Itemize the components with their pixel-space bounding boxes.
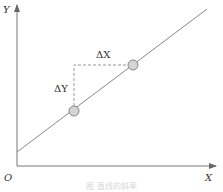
delta-y-label: ΔY [54,83,68,94]
delta-x-label: ΔX [96,49,111,60]
point-1 [69,106,79,116]
point-2 [128,60,138,70]
slope-diagram: Y X O ΔX ΔY [0,0,223,192]
regression-line [17,9,207,152]
y-axis-label: Y [3,4,11,15]
figure-caption: 图 直线的斜率 [0,180,223,191]
